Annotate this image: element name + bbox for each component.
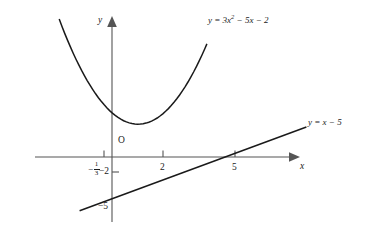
y-axis-arrowhead bbox=[107, 16, 117, 27]
x-axis-label: x bbox=[300, 162, 304, 172]
line-graph-x-minus-5 bbox=[80, 127, 307, 211]
parabola-equation-rhs: − 5x − 2 bbox=[234, 15, 268, 25]
x-axis-arrowhead bbox=[289, 152, 300, 162]
x-tick-label-two: 2 bbox=[160, 163, 165, 173]
y-axis-label: y bbox=[98, 16, 102, 26]
fraction-numerator: 1 bbox=[95, 161, 99, 169]
x-tick-label-neg-one-third: − 1 3 bbox=[88, 161, 100, 177]
graph-canvas bbox=[0, 0, 365, 231]
y-tick-label-minus-five: −5 bbox=[98, 202, 108, 212]
y-tick-label-minus-two: −2 bbox=[99, 167, 109, 177]
line-equation-label: y = x − 5 bbox=[308, 118, 342, 127]
fraction-denominator: 3 bbox=[95, 170, 99, 178]
parabola-equation-label: y = 3x2 − 5x − 2 bbox=[208, 14, 268, 25]
fraction-minus-sign: − bbox=[88, 164, 93, 174]
parabola-curve bbox=[59, 19, 207, 124]
origin-label: O bbox=[118, 136, 125, 146]
graph-figure: y x O − 1 3 2 5 −2 −5 y = 3x2 − 5x − 2 y… bbox=[0, 0, 365, 231]
parabola-equation-lhs: y = 3x bbox=[208, 15, 231, 25]
x-tick-label-five: 5 bbox=[232, 163, 237, 173]
